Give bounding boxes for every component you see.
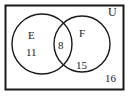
set-e-label: E: [28, 30, 35, 41]
universal-set-label: U: [108, 6, 117, 18]
venn-diagram-figure: U E F 11 8 15 16: [0, 0, 132, 98]
count-f-only: 15: [76, 60, 87, 71]
set-f-label: F: [79, 28, 85, 39]
count-outside: 16: [105, 73, 116, 84]
count-intersection: 8: [58, 40, 64, 51]
count-e-only: 11: [26, 47, 37, 58]
